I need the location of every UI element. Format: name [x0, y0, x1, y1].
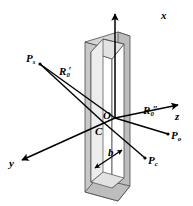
- observation-distance-label: R0″: [143, 105, 159, 116]
- frame-inner-left-bevel: [91, 39, 103, 182]
- z-axis-label: z: [175, 111, 179, 122]
- x-axis-label: x: [161, 10, 167, 21]
- diagram-svg: [0, 0, 193, 206]
- source-point-label: Ps: [26, 53, 35, 64]
- aperture-width-label: b: [108, 147, 114, 158]
- figure-canvas: x y z Ps Po Pc R0′ R0″ O C b: [0, 0, 193, 206]
- observation-point-label: Po: [171, 130, 181, 141]
- observation-point-marker: [166, 132, 169, 135]
- aperture-center-point-label: C: [95, 126, 102, 137]
- source-point-marker: [38, 62, 41, 65]
- center-observation-point-label: Pc: [148, 155, 158, 166]
- origin-point-label: O: [103, 110, 111, 121]
- source-distance-label: R0′: [59, 66, 72, 77]
- center-observation-point-marker: [143, 156, 146, 159]
- y-axis-label: y: [9, 158, 14, 169]
